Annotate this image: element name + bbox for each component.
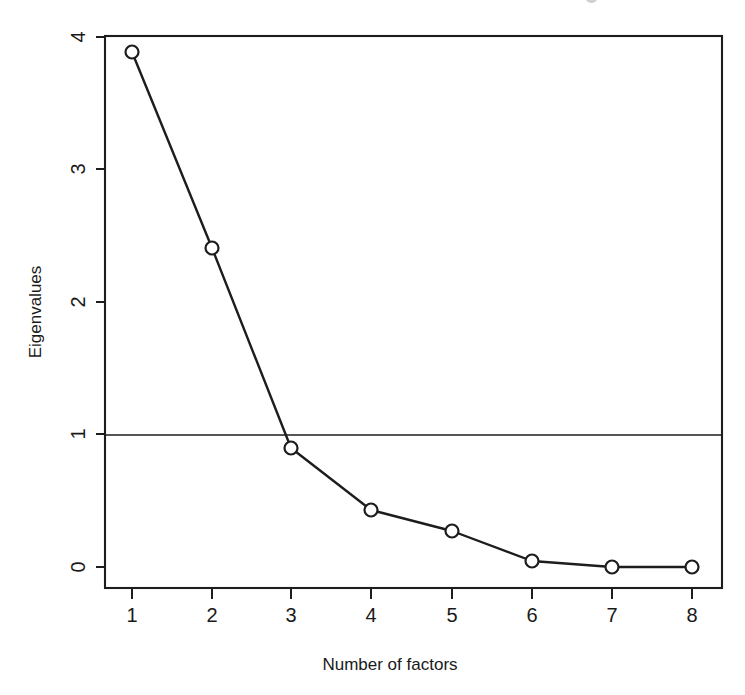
scree-plot-figure: 0 1 2 3 4 1 2 3 4 5 6 7 8 <box>0 0 745 695</box>
data-point-1 <box>126 46 139 59</box>
data-point-7 <box>606 561 619 574</box>
data-point-5 <box>446 525 459 538</box>
x-tick-label-5: 5 <box>446 604 457 626</box>
data-point-markers <box>126 46 699 574</box>
x-tick-label-8: 8 <box>686 604 697 626</box>
x-axis-tick-labels: 1 2 3 4 5 6 7 8 <box>126 604 697 626</box>
x-tick-label-1: 1 <box>126 604 137 626</box>
y-tick-label-1: 1 <box>67 428 89 439</box>
data-point-8 <box>686 561 699 574</box>
data-point-6 <box>526 555 539 568</box>
x-tick-label-6: 6 <box>526 604 537 626</box>
x-axis-title: Number of factors <box>322 655 457 674</box>
y-tick-label-2: 2 <box>67 296 89 307</box>
plot-frame <box>105 36 722 588</box>
y-tick-label-3: 3 <box>67 163 89 174</box>
x-tick-label-3: 3 <box>285 604 296 626</box>
scree-line-series <box>132 52 692 567</box>
x-tick-label-2: 2 <box>206 604 217 626</box>
y-axis-title: Eigenvalues <box>26 266 45 359</box>
data-point-3 <box>285 442 298 455</box>
x-tick-label-4: 4 <box>365 604 376 626</box>
y-tick-label-0: 0 <box>67 561 89 572</box>
data-point-2 <box>206 242 219 255</box>
y-tick-label-4: 4 <box>67 31 89 42</box>
x-tick-label-7: 7 <box>606 604 617 626</box>
x-axis-ticks <box>132 588 692 599</box>
y-axis-tick-labels: 0 1 2 3 4 <box>67 31 89 572</box>
scree-plot-canvas: 0 1 2 3 4 1 2 3 4 5 6 7 8 <box>0 0 745 695</box>
y-axis-ticks <box>96 37 105 567</box>
eigenvalue-polyline <box>132 52 692 567</box>
data-point-4 <box>365 504 378 517</box>
